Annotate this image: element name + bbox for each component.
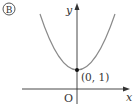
- vertex-point: [75, 68, 79, 72]
- x-axis: x: [22, 87, 133, 105]
- y-axis-arrow-icon: [75, 3, 80, 10]
- vertex-point-label: (0, 1): [81, 71, 109, 83]
- parabola-graph: B x y O (0, 1): [0, 0, 134, 110]
- option-label-badge: B: [3, 3, 15, 15]
- origin-label: O: [64, 92, 73, 105]
- option-label: B: [6, 5, 13, 15]
- x-axis-label: x: [126, 91, 133, 104]
- parabola-curve: [40, 14, 115, 70]
- y-axis-label: y: [65, 4, 73, 17]
